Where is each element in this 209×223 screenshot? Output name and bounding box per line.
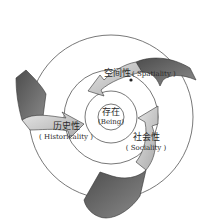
historicality-label-en: ( Historicality )	[39, 133, 93, 141]
marker-dot	[129, 78, 132, 81]
spatiality-label-en: ( Spatiality )	[132, 70, 176, 78]
historicality-label-zh: 历史性	[53, 120, 80, 131]
center-label-en: (Being)	[98, 118, 124, 126]
sociality-label-en: ( Sociality )	[126, 144, 167, 152]
being-triad-diagram: 存在 (Being) 空间性 ( Spatiality ) 历史性 ( Hist…	[0, 0, 209, 223]
center-label-zh: 存在	[102, 106, 120, 117]
sociality-label-zh: 社会性	[133, 131, 160, 142]
spatiality-label-zh: 空间性	[104, 67, 131, 78]
